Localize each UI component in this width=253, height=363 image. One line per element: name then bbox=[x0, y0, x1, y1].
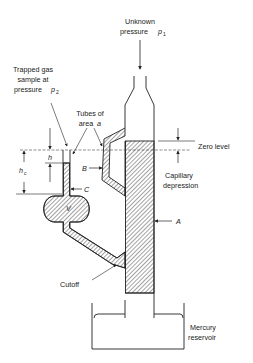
label-A: A bbox=[175, 217, 181, 226]
svg-text:p: p bbox=[50, 85, 55, 94]
tubes-of-area-label: Tubes of area a bbox=[76, 109, 104, 128]
zero-level-label: Zero level bbox=[198, 142, 230, 151]
svg-text:area: area bbox=[79, 119, 93, 128]
svg-text:p: p bbox=[157, 27, 162, 36]
svg-text:Tubes of: Tubes of bbox=[76, 109, 104, 118]
capillary-depression-label-1: Capillary bbox=[165, 171, 193, 180]
svg-text:Trapped gas: Trapped gas bbox=[13, 65, 53, 74]
mercury-column-A bbox=[126, 141, 155, 293]
capillary-depression-label-2: depression bbox=[163, 181, 198, 190]
mcleod-gauge-diagram: Unknown pressure p 1 V Zero level Capill… bbox=[0, 0, 253, 363]
trapped-gas-label: Trapped gas sample at pressure p 2 bbox=[13, 65, 59, 95]
unknown-pressure-label: Unknown pressure p 1 bbox=[120, 17, 166, 37]
svg-text:pressure: pressure bbox=[14, 85, 42, 94]
label-hc: h bbox=[19, 166, 23, 175]
mercury-in-C bbox=[44, 163, 125, 268]
label-h: h bbox=[48, 153, 52, 162]
svg-text:c: c bbox=[24, 170, 27, 176]
mercury-reservoir-label-1: Mercury bbox=[190, 323, 216, 332]
svg-text:Unknown: Unknown bbox=[125, 17, 155, 26]
mercury-reservoir-label-2: reservoir bbox=[188, 333, 217, 342]
cutoff-label: Cutoff bbox=[60, 280, 79, 289]
svg-text:2: 2 bbox=[56, 89, 59, 95]
svg-text:sample at: sample at bbox=[17, 75, 48, 84]
mercury-reservoir bbox=[92, 303, 184, 349]
label-B: B bbox=[82, 164, 87, 173]
svg-text:1: 1 bbox=[163, 31, 166, 37]
capillary-B bbox=[102, 128, 125, 196]
label-C: C bbox=[84, 185, 90, 194]
svg-text:a: a bbox=[97, 119, 101, 128]
svg-text:pressure: pressure bbox=[120, 27, 148, 36]
